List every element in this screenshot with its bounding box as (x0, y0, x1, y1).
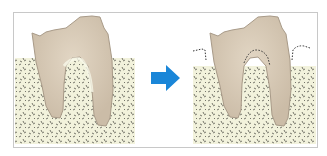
original-bone-line-left (193, 49, 206, 60)
bone-after (193, 66, 316, 144)
original-bone-line-right (292, 46, 310, 60)
before-panel (15, 16, 135, 144)
right-arrow-icon (151, 65, 180, 91)
tooth-diagram (0, 0, 327, 156)
bone-before (15, 58, 135, 144)
after-panel (193, 16, 316, 144)
